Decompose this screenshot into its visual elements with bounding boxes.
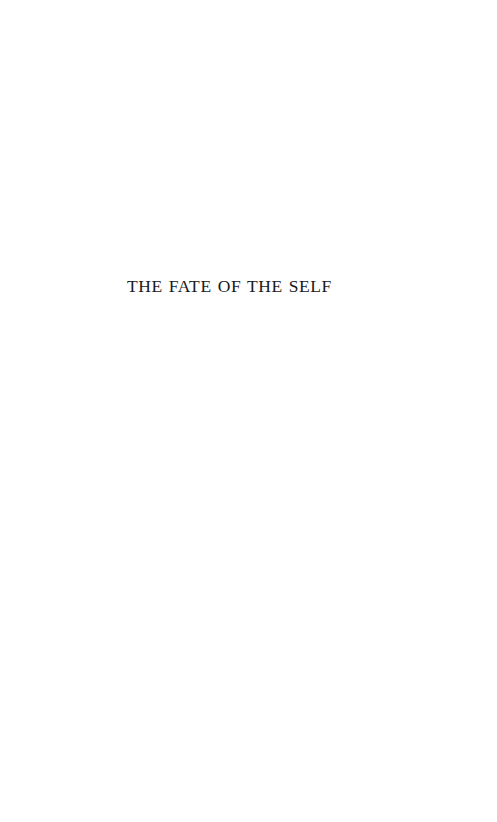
half-title: THE FATE OF THE SELF <box>127 278 332 296</box>
book-page: THE FATE OF THE SELF <box>0 0 497 822</box>
